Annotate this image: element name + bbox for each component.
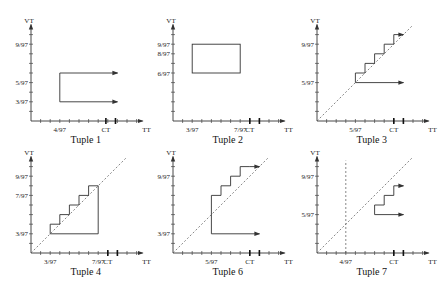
ct-label: CT: [389, 126, 399, 134]
panel-tuple-7: VTTTCT4/979/975/97Tuple 7: [302, 149, 438, 277]
y-tick-label: 5/97: [302, 211, 315, 219]
x-axis-label: TT: [428, 258, 437, 266]
ct-label: CT: [245, 258, 255, 266]
y-tick-label: 3/97: [158, 230, 171, 238]
y-axis-label: VT: [310, 149, 320, 157]
y-tick-label: 9/97: [302, 173, 315, 181]
y-tick-label: 9/97: [158, 41, 171, 49]
panel-title: Tuple 7: [357, 266, 387, 277]
y-tick-label: 8/97: [158, 50, 171, 58]
panel-title: Tuple 1: [71, 134, 101, 145]
x-axis-label: TT: [284, 126, 293, 134]
y-tick-label: 3/97: [16, 98, 29, 106]
ct-label: CT: [389, 258, 399, 266]
y-tick-label: 9/97: [158, 173, 171, 181]
panel-title: Tuple 4: [71, 266, 101, 277]
region-outline: [211, 167, 249, 234]
x-tick-label: 5/97: [205, 258, 218, 266]
panel-tuple-6: VTTTCT5/979/973/97Tuple 6: [158, 149, 294, 277]
y-tick-label: 9/97: [302, 41, 315, 49]
x-tick-label: 3/97: [186, 126, 199, 134]
y-axis-label: VT: [24, 149, 34, 157]
ct-label: CT: [245, 126, 255, 134]
x-tick-label: 3/97: [44, 258, 57, 266]
y-tick-label: 7/97: [16, 192, 29, 200]
tuple-timeline-figure: VTTTCT4/979/975/973/97Tuple 1VTTTCT3/977…: [0, 0, 444, 286]
region-outline: [375, 186, 394, 215]
x-axis-label: TT: [428, 126, 437, 134]
y-axis-label: VT: [166, 149, 176, 157]
panel-title: Tuple 2: [213, 134, 243, 145]
region-rectangle: [192, 44, 240, 73]
diagonal-dashed-line: [173, 157, 269, 253]
x-tick-label: 4/97: [54, 126, 67, 134]
x-tick-label: 4/97: [340, 258, 353, 266]
y-tick-label: 9/97: [16, 173, 29, 181]
ct-label: CT: [101, 126, 111, 134]
panel-tuple-4: VTTTCT3/977/979/977/973/97Tuple 4: [16, 149, 152, 277]
ct-label: CT: [103, 258, 113, 266]
y-tick-label: 5/97: [16, 79, 29, 87]
y-tick-label: 3/97: [16, 230, 29, 238]
diagonal-dashed-line: [317, 157, 413, 253]
y-axis-label: VT: [24, 17, 34, 25]
panel-tuple-1: VTTTCT4/979/975/973/97Tuple 1: [16, 17, 152, 145]
y-axis-label: VT: [166, 17, 176, 25]
y-axis-label: VT: [310, 17, 320, 25]
panel-title: Tuple 3: [357, 134, 387, 145]
x-axis-label: TT: [142, 126, 151, 134]
panel-tuple-3: VTTTCT5/979/975/97Tuple 3: [302, 17, 438, 145]
y-tick-label: 5/97: [302, 79, 315, 87]
y-tick-label: 9/97: [16, 41, 29, 49]
panel-tuple-2: VTTTCT3/977/979/978/976/97Tuple 2: [158, 17, 294, 145]
region-outline: [355, 35, 393, 83]
x-axis-label: TT: [142, 258, 151, 266]
panel-title: Tuple 6: [213, 266, 243, 277]
x-axis-label: TT: [284, 258, 293, 266]
y-tick-label: 6/97: [158, 70, 171, 78]
x-tick-label: 5/97: [349, 126, 362, 134]
x-tick-label: 7/97: [234, 126, 247, 134]
x-tick-label: 7/97: [92, 258, 105, 266]
